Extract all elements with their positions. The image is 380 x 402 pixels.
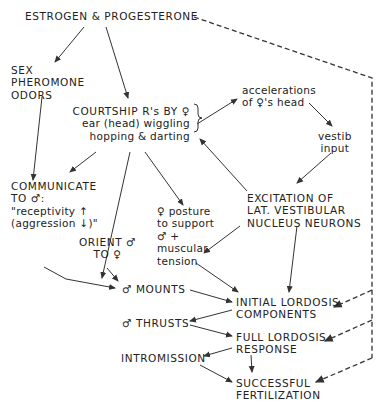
node-mounts: ♂ MOUNTS xyxy=(122,283,186,295)
arrow-communicate-mounts xyxy=(44,267,115,288)
node-communicate: COMMUNICATE TO ♂: "receptivity ↑ (aggres… xyxy=(11,180,98,230)
node-hormones: ESTROGEN & PROGESTERONE xyxy=(25,10,198,22)
node-intromission: INTROMISSION xyxy=(121,352,206,364)
node-pheromone: SEX PHEROMONE ODORS xyxy=(11,64,85,101)
node-accelerations: accelerations of ♀'s head xyxy=(242,84,316,109)
node-posture: ♀ posture to support ♂ + muscular tensio… xyxy=(157,205,214,267)
arrow-vestib-excitation xyxy=(297,153,331,183)
arrow-hormones-pheromone xyxy=(55,27,84,62)
node-initial-lordosis: INITIAL LORDOSIS COMPONENTS xyxy=(236,296,339,321)
arrow-initial-thrusts xyxy=(190,310,232,321)
dashed-arrow-fertilization xyxy=(316,358,372,382)
dashed-arrow-full xyxy=(325,320,372,341)
arrow-excitation-initial xyxy=(289,226,297,292)
node-excitation: EXCITATION OF LAT. VESTIBULAR NUCLEUS NE… xyxy=(247,192,361,229)
arrow-excitation-courtship xyxy=(200,139,247,191)
arrow-thrusts-full xyxy=(190,325,232,336)
node-fertilization: SUCCESSFUL FERTILIZATION xyxy=(236,377,321,402)
arrow-posture-initial xyxy=(196,263,238,292)
arrow-courtship-posture xyxy=(145,152,183,205)
arrow-courtship-accelerations xyxy=(197,99,237,124)
arrow-full-intromission xyxy=(204,348,232,356)
node-full-lordosis: FULL LORDOSIS RESPONSE xyxy=(236,331,326,356)
arrow-intromission-fertilization xyxy=(200,365,232,382)
arrow-courtship-communicate xyxy=(70,152,96,172)
arrow-pheromone-communicate xyxy=(33,97,42,180)
node-vestib: vestib input xyxy=(318,130,352,155)
dashed-arrow-initial xyxy=(334,290,372,307)
arrow-hormones-courtship xyxy=(106,27,128,98)
arrow-orient-mounts xyxy=(107,268,118,281)
diagram-canvas: ESTROGEN & PROGESTERONE SEX PHEROMONE OD… xyxy=(0,0,380,402)
node-thrusts: ♂ THRUSTS xyxy=(122,317,189,329)
node-orient: ORIENT ♂ TO ♀ xyxy=(79,236,136,261)
arrow-mounts-initial xyxy=(190,290,232,302)
node-courtship: COURTSHIP R's BY ♀ ear (head) wiggling h… xyxy=(66,105,190,142)
arrow-full-fertilization xyxy=(251,355,252,372)
courtship-brace xyxy=(194,104,202,132)
